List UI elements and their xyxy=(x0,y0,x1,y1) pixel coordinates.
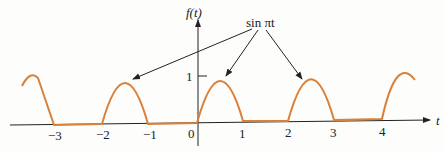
annotation-arrow-2 xyxy=(226,30,258,76)
x-tick-label-4: 4 xyxy=(379,125,386,138)
x-axis-label: t xyxy=(436,114,440,127)
x-tick-label-3: 3 xyxy=(330,126,337,139)
x-tick-label-neg3: −3 xyxy=(48,129,62,142)
diagram-canvas: f(t) sin πt 1 t −3 −2 −1 0 1 2 3 4 xyxy=(0,0,445,153)
x-tick-label-1: 1 xyxy=(239,127,246,140)
annotation-arrow-3 xyxy=(266,30,302,79)
x-tick-label-neg2: −2 xyxy=(96,128,110,141)
x-tick-label-0: 0 xyxy=(188,127,195,140)
y-axis-label: f(t) xyxy=(186,6,202,19)
curve-annotation-label: sin πt xyxy=(246,16,275,29)
y-tick-label-1: 1 xyxy=(186,70,193,83)
annotation-arrow-1 xyxy=(133,29,252,79)
x-tick-label-2: 2 xyxy=(285,126,292,139)
half-wave-sine-curve xyxy=(22,73,415,125)
x-tick-label-neg1: −1 xyxy=(143,128,157,141)
